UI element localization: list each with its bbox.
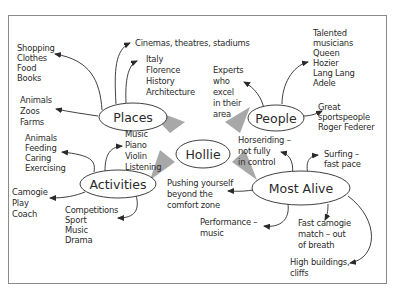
leaf-horseriding: Horseriding – not fully in control [238, 135, 293, 167]
edge-mostalive-pushing [228, 190, 253, 191]
leaf-pushing: Pushing yourself beyond the comfort zone [167, 178, 235, 210]
branch-people: People [248, 105, 304, 131]
center-node: Hollie [176, 140, 230, 168]
leaf-camogie: Camogie Play Coach [12, 187, 50, 219]
leaf-animals-feeding: Animals Feeding Caring Exercising [25, 133, 66, 173]
branch-activities: Activities [80, 170, 156, 198]
edge-activities-music [105, 146, 122, 171]
leaf-surfing: Surfing – fast pace [324, 149, 362, 169]
people-label: People [255, 111, 297, 126]
activities-label: Activities [89, 177, 146, 192]
leaf-experts: Experts who excel in their area [213, 65, 246, 119]
leaf-music: Music Piano Violin Listening [125, 129, 161, 172]
edge-mostalive-performance [264, 204, 288, 226]
places-label: Places [113, 110, 153, 125]
edge-activities-camogie [50, 192, 85, 198]
leaf-animals-zoos: Animals Zoos Farms [20, 95, 54, 127]
leaf-performance: Performance – music [200, 217, 260, 238]
leaf-sportspeople: Great sportspeople Roger Federer [318, 102, 375, 132]
edge-activities-competitions [118, 195, 137, 218]
leaf-cinemas: Cinemas, theatres, stadiums [135, 38, 250, 48]
leaf-musicians: Talented musicians Queen Hozier Lang Lan… [312, 28, 357, 88]
leaf-high-buildings: High buildings, cliffs [290, 257, 352, 278]
leaf-italy: Italy Florence History Architecture [146, 54, 195, 97]
leaf-competitions: Competitions Sport Music Drama [65, 205, 121, 245]
branch-most-alive: Most Alive [252, 171, 350, 205]
edge-mostalive-highbuildings [348, 196, 372, 263]
edge-activities-animals [62, 152, 94, 172]
center-label: Hollie [185, 147, 220, 162]
leaf-fast-camogie: Fast camogie match – out of breath [298, 218, 353, 250]
edge-people-experts [244, 82, 264, 109]
leaf-shopping: Shopping Clothes Food Books [17, 43, 57, 83]
mind-map: Hollie Places People Activities Most Ali… [0, 0, 394, 295]
edge-places-shopping [55, 54, 102, 110]
most-alive-label: Most Alive [269, 181, 334, 196]
edge-places-italy [126, 61, 137, 103]
edge-places-animals [56, 109, 98, 116]
edge-people-musicians [282, 62, 308, 104]
branch-places: Places [99, 103, 167, 131]
